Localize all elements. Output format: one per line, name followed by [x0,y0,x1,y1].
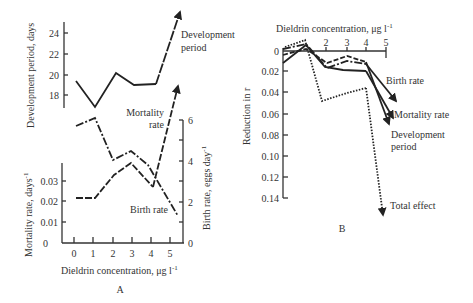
label-total-effect: Total effect [390,200,436,211]
label-development-b: Development [391,129,445,140]
y-tick: 0.08 [262,130,280,141]
label-birth-rate-b: Birth rate [386,75,425,86]
dev-axis-label: Development period, days [25,23,36,128]
y-tick: 0.04 [262,87,280,98]
dev-tick: 22 [49,49,59,60]
x-tick: 1 [91,248,96,259]
development-arrow [156,12,180,84]
birth-axis: 6 4 2 0 Birth rate, eggs day-1 [179,115,212,249]
x-tick: 2 [324,37,329,48]
dev-tick: 20 [49,70,59,81]
label-birth-rate-a: Birth rate [130,204,169,215]
development-period-line [76,73,156,107]
x-axis-label-a: Dieldrin concentration, μg l-1 [61,264,178,276]
mortality-arrow [153,86,178,187]
x-tick: 5 [168,248,173,259]
mort-tick: 0.03 [41,176,59,187]
development-axis: 24 22 20 18 Development period, days [25,22,68,128]
figure: 24 22 20 18 Development period, days Dev… [0,0,473,303]
panel-a: 24 22 20 18 Development period, days Dev… [22,12,235,295]
label-development: Development [181,29,235,40]
birth-tick: 4 [188,156,193,167]
mort-tick: 0 [43,238,48,249]
x-tick: 3 [130,248,135,259]
label-mortality-rate-b: Mortality rate [394,109,450,120]
label-mortality: Mortality [126,107,164,118]
label-development-period-b: period [391,141,417,152]
y-tick: 0.02 [262,66,280,77]
y-tick: 0.06 [262,109,280,120]
y-tick: 0.10 [262,151,280,162]
mortality-rate-line [76,163,153,198]
label-development-period: period [181,42,207,53]
y-tick: 0.12 [262,172,280,183]
birth-tick: 6 [188,115,193,126]
development-period-arrow-b [366,62,389,124]
label-mortality-rate: rate [149,119,165,130]
mort-tick: 0.01 [41,217,59,228]
birth-rate-line-a [76,118,178,216]
y-tick: 0 [274,46,279,57]
y-axis-b: 0 0.02 0.04 0.06 0.08 0.10 0.12 0.14 Red… [241,46,288,204]
y-tick: 0.14 [262,193,280,204]
x-tick: 3 [345,37,350,48]
caption-b: B [339,223,346,234]
dev-tick: 24 [49,28,59,39]
birth-tick: 0 [188,238,193,249]
birth-axis-label: Birth rate, eggs day-1 [200,145,212,230]
total-effect-arrow [366,88,383,215]
panel-b: Dieldrin concentration, μg l-1 2 3 4 5 0… [241,22,450,234]
x-axis-label-b: Dieldrin concentration, μg l-1 [276,22,393,34]
x-tick: 4 [149,248,154,259]
y-axis-label-b: Reduction in r [241,87,252,145]
x-tick: 2 [111,248,116,259]
x-tick: 4 [364,37,369,48]
caption-a: A [116,284,124,295]
dev-tick: 18 [49,90,59,101]
birth-tick: 2 [188,197,193,208]
x-axis-a: 0 1 2 3 4 5 Dieldrin concentration, μg l… [61,237,178,295]
x-tick: 5 [384,37,389,48]
mort-axis-label: Mortality rate, days-1 [22,172,34,257]
x-tick: 0 [72,248,77,259]
mort-tick: 0.02 [41,196,59,207]
